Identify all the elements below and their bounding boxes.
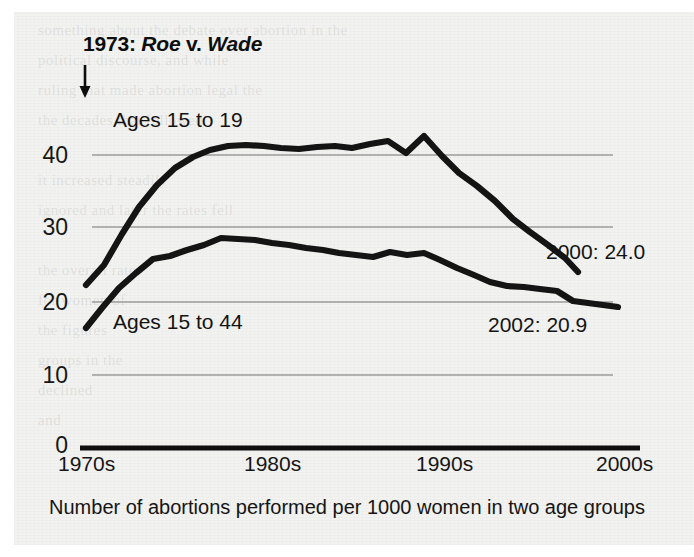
series-label-ages-15-to-19: Ages 15 to 19 — [113, 108, 243, 132]
y-tick-label-30: 30 — [20, 214, 68, 241]
end-value-label-lower: 2002: 20.9 — [488, 313, 587, 337]
annotation-year: 1973: — [83, 32, 136, 55]
y-tick-label-10: 10 — [20, 362, 68, 389]
end-value-label-upper: 2000: 24.0 — [546, 240, 645, 264]
annotation-case-second: Wade — [207, 32, 262, 55]
gridlines — [92, 155, 613, 375]
series-label-ages-15-to-44: Ages 15 to 44 — [113, 310, 243, 334]
annotation-versus: v. — [186, 32, 202, 55]
series-line-ages-15-to-19 — [86, 136, 578, 285]
chart-caption: Number of abortions performed per 1000 w… — [0, 496, 694, 519]
annotation-roe-v-wade: 1973: Roe v. Wade — [83, 32, 262, 56]
annotation-arrow-container — [74, 60, 102, 104]
annotation-case-first: Roe — [141, 32, 180, 55]
y-tick-label-40: 40 — [20, 142, 68, 169]
down-arrow-icon — [80, 65, 91, 98]
x-tick-label-1980s: 1980s — [244, 452, 301, 476]
x-tick-label-2000s: 2000s — [596, 452, 653, 476]
x-tick-label-1990s: 1990s — [416, 452, 473, 476]
x-tick-label-1970s: 1970s — [58, 452, 115, 476]
chart-page: something about the debate over abortion… — [0, 0, 694, 557]
y-tick-label-20: 20 — [20, 289, 68, 316]
